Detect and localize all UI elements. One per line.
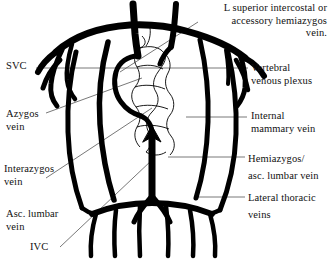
label-vertebral-venous-plexus: Vertebral venous plexus <box>251 62 327 87</box>
label-internal-mammary-vein: Internal mammary vein <box>251 110 329 135</box>
label-svc: SVC <box>6 60 27 73</box>
bottom-tributary-1 <box>91 214 96 256</box>
label-hemiazygos-asc-lumbar-vein: Hemiazygos/ asc. lumbar vein <box>248 150 329 184</box>
bottom-tributary-4 <box>166 206 168 256</box>
iliac-left <box>134 196 152 222</box>
label-ivc: IVC <box>30 241 48 254</box>
left-jugular-trunk <box>133 4 138 56</box>
label-asc-lumbar-vein: Asc. lumbar vein <box>6 208 58 233</box>
bottom-tributary-5 <box>190 210 193 256</box>
label-lateral-thoracic-veins: Lateral thoracic veins <box>248 189 329 223</box>
bottom-tributary-6 <box>210 214 215 256</box>
label-interazygos-vein: Interazygos vein <box>4 163 54 188</box>
hemiazygos-ascending-lumbar-vein <box>99 42 114 200</box>
vessel-trunks <box>38 4 264 256</box>
label-azygos-vein: Azygos vein <box>6 108 39 133</box>
bottom-tributary-3 <box>139 206 140 256</box>
venous-collateral-diagram-page: L superior intercostal or accessory hemi… <box>0 0 329 262</box>
internal-mammary-vein <box>196 40 208 198</box>
bottom-tributary-2 <box>114 210 116 256</box>
left-lateral-thoracic-vein <box>68 52 82 208</box>
pelvic-venous-band <box>92 203 212 214</box>
label-l-superior-intercostal: L superior intercostal or accessory hemi… <box>196 2 327 40</box>
